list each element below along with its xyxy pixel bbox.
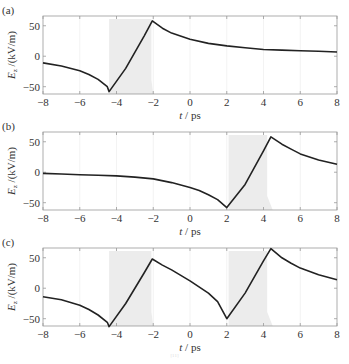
x-tick-label: 6	[298, 96, 304, 108]
shaded-pulse-region	[229, 251, 273, 326]
y-tick-label: 0	[35, 282, 41, 294]
x-tick-label: 2	[224, 328, 230, 340]
x-tick-label: −2	[147, 328, 159, 340]
y-tick-label: 50	[29, 252, 41, 264]
x-tick-label: −6	[74, 212, 86, 224]
x-axis-label: t / ps	[179, 225, 200, 237]
x-tick-label: 4	[261, 212, 267, 224]
y-tick-label: 50	[29, 136, 41, 148]
chart-panel-a: −8−6−4−202468−50050(a)Ez /(kV/m)t / ps	[2, 4, 340, 121]
x-tick-label: −6	[74, 96, 86, 108]
x-axis-label: t / ps	[179, 341, 200, 353]
y-axis-label: Ez /(kV/m)	[5, 147, 19, 196]
y-tick-label: −50	[23, 197, 41, 209]
x-tick-label: 2	[224, 212, 230, 224]
x-tick-label: −4	[111, 212, 123, 224]
x-tick-label: −4	[111, 96, 123, 108]
x-tick-label: −8	[37, 212, 49, 224]
y-axis-label: Ez /(kV/m)	[5, 31, 19, 80]
y-tick-label: −50	[23, 81, 41, 93]
x-tick-label: −2	[147, 212, 159, 224]
y-tick-label: −50	[23, 313, 41, 325]
x-tick-label: −4	[111, 328, 123, 340]
shaded-pulse-region	[109, 251, 153, 326]
x-tick-label: 8	[334, 328, 340, 340]
x-tick-label: −8	[37, 96, 49, 108]
x-tick-label: −8	[37, 328, 49, 340]
x-tick-label: 4	[261, 328, 267, 340]
x-tick-label: 8	[334, 212, 340, 224]
panel-label: (c)	[2, 236, 15, 249]
x-tick-label: 8	[334, 96, 340, 108]
x-tick-label: −6	[74, 328, 86, 340]
x-tick-label: 6	[298, 212, 304, 224]
chart-panel-b: −8−6−4−202468−50050(b)Ez /(kV/m)t / ps	[2, 120, 340, 237]
x-tick-label: 2	[224, 96, 230, 108]
y-tick-label: 0	[35, 166, 41, 178]
panel-label: (b)	[2, 120, 15, 133]
panel-label: (a)	[2, 4, 15, 17]
x-tick-label: 0	[187, 328, 193, 340]
x-tick-label: 0	[187, 96, 193, 108]
figure: −8−6−4−202468−50050(a)Ez /(kV/m)t / ps−8…	[0, 0, 349, 364]
x-axis-label: t / ps	[179, 109, 200, 121]
x-tick-label: 6	[298, 328, 304, 340]
x-tick-label: 4	[261, 96, 267, 108]
y-tick-label: 0	[35, 50, 41, 62]
figure-caption: [11]	[0, 353, 349, 358]
y-axis-label: Ez /(kV/m)	[5, 263, 19, 312]
x-tick-label: −2	[147, 96, 159, 108]
x-tick-label: 0	[187, 212, 193, 224]
chart-panel-c: −8−6−4−202468−50050(c)Ez /(kV/m)t / ps	[2, 236, 340, 353]
y-tick-label: 50	[29, 20, 41, 32]
